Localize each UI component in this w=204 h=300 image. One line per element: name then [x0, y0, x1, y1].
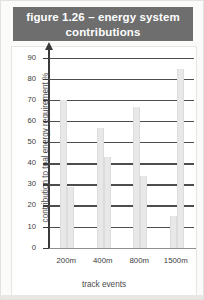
gridline — [49, 142, 194, 143]
bar — [104, 157, 111, 248]
y-axis-tick: 80 — [43, 79, 49, 80]
x-axis-tick-label: 1500m — [164, 256, 188, 265]
gridline — [49, 121, 194, 122]
figure-title: figure 1.26 – energy system contribution… — [13, 7, 193, 41]
bar — [133, 107, 140, 248]
x-axis-title: track events — [12, 280, 196, 289]
bar — [170, 216, 177, 248]
y-axis-tick-label: 70 — [28, 95, 36, 104]
chart-frame: contribution to toal energy requirement … — [11, 46, 197, 296]
y-axis-tick-label: 50 — [28, 137, 36, 146]
gridline — [49, 163, 194, 164]
y-axis-tick: 30 — [43, 184, 49, 185]
y-axis-tick: 60 — [43, 121, 49, 122]
y-axis-tick-label: 40 — [28, 159, 36, 168]
page-bottom-strip — [1, 295, 203, 299]
gridline — [49, 79, 194, 80]
figure-page: figure 1.26 – energy system contribution… — [0, 0, 204, 300]
y-axis-arrow-icon — [45, 42, 53, 50]
y-axis-tick: 10 — [43, 227, 49, 228]
y-axis-tick: 0 — [43, 248, 49, 249]
bar — [60, 100, 67, 248]
y-axis-tick-label: 30 — [28, 180, 36, 189]
plot-area: 0102030405060708090 200m400m800m1500m — [48, 59, 194, 249]
y-axis-tick-label: 60 — [28, 116, 36, 125]
gridline — [49, 58, 194, 59]
y-axis-tick: 40 — [43, 163, 49, 164]
y-axis-tick: 70 — [43, 100, 49, 101]
y-axis-tick: 50 — [43, 142, 49, 143]
bar — [67, 187, 74, 248]
y-axis-tick-label: 0 — [32, 243, 36, 252]
x-axis-tick-label: 400m — [93, 256, 113, 265]
y-axis-tick-label: 90 — [28, 53, 36, 62]
bar — [97, 128, 104, 248]
bar — [140, 176, 147, 248]
x-axis-tick-label: 200m — [56, 256, 76, 265]
bar — [177, 69, 184, 248]
y-axis-tick: 20 — [43, 205, 49, 206]
y-axis-tick-label: 80 — [28, 74, 36, 83]
y-axis-tick-label: 10 — [28, 222, 36, 231]
gridline — [49, 100, 194, 101]
x-axis-tick-label: 800m — [129, 256, 149, 265]
y-axis-tick-label: 20 — [28, 201, 36, 210]
gridline — [49, 184, 194, 185]
y-axis-tick: 90 — [43, 58, 49, 59]
